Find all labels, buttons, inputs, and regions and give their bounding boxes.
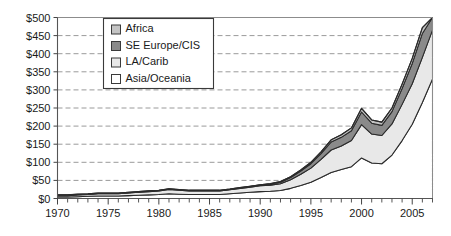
x-tick-label-1975: 1975 [96, 207, 120, 219]
y-tick-label-300: $300 [26, 84, 50, 96]
x-axis: 19701975198019851990199520002005 [45, 199, 432, 219]
stacked-area-chart: $0$50$100$150$200$250$300$350$400$450$50… [0, 0, 451, 236]
y-tick-label-450: $450 [26, 30, 50, 42]
x-tick-label-1970: 1970 [45, 207, 69, 219]
x-tick-label-2005: 2005 [400, 207, 424, 219]
legend-label-africa: Africa [126, 22, 155, 34]
legend-swatch-africa [112, 25, 121, 34]
y-axis: $0$50$100$150$200$250$300$350$400$450$50… [26, 12, 57, 205]
x-tick-label-2000: 2000 [349, 207, 373, 219]
legend: AfricaSE Europe/CISLA/CaribAsia/Oceania [104, 19, 214, 89]
y-tick-label-500: $500 [26, 12, 50, 24]
y-tick-label-200: $200 [26, 120, 50, 132]
y-tick-label-50: $50 [32, 174, 50, 186]
y-tick-label-400: $400 [26, 48, 50, 60]
legend-swatch-la-carib [112, 58, 121, 67]
y-tick-label-350: $350 [26, 66, 50, 78]
y-tick-label-0: $0 [38, 193, 50, 205]
x-tick-label-1990: 1990 [248, 207, 272, 219]
y-tick-label-100: $100 [26, 156, 50, 168]
x-tick-label-1985: 1985 [197, 207, 221, 219]
y-tick-label-250: $250 [26, 102, 50, 114]
chart-canvas: $0$50$100$150$200$250$300$350$400$450$50… [0, 0, 451, 236]
legend-label-la-carib: LA/Carib [126, 55, 169, 67]
legend-label-asia-oceania: Asia/Oceania [126, 72, 192, 84]
top-mask [0, 0, 451, 17]
x-tick-label-1980: 1980 [147, 207, 171, 219]
legend-swatch-asia-oceania [112, 75, 121, 84]
y-tick-label-150: $150 [26, 138, 50, 150]
x-tick-label-1995: 1995 [299, 207, 323, 219]
legend-swatch-se-europe-cis [112, 42, 121, 51]
legend-label-se-europe-cis: SE Europe/CIS [126, 39, 201, 51]
